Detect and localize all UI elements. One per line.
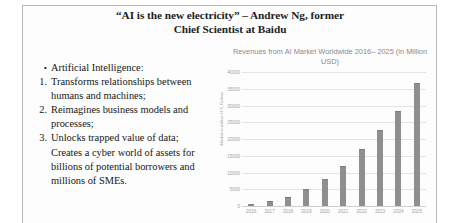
bar [285, 197, 291, 206]
bar-slot [408, 72, 426, 206]
bar-slot [260, 72, 278, 206]
x-axis-tick-label: 2017 [260, 209, 278, 215]
bar-slot [242, 72, 260, 206]
y-axis-tick-label: 15000 [227, 153, 240, 158]
x-axis-tick-label: 2024 [389, 209, 407, 215]
bar [359, 149, 365, 206]
list-item: 3. Unlocks trapped value of data; Create… [36, 131, 204, 187]
slide-title: “AI is the new electricity” – Andrew Ng,… [40, 9, 420, 36]
bar [377, 130, 383, 206]
slide-title-line-2: Chief Scientist at Baidu [40, 23, 420, 37]
bar-slot [316, 72, 334, 206]
list-item-text: Unlocks trapped value of data; Creates a… [51, 131, 204, 187]
y-axis-tick-label: 25000 [227, 120, 240, 125]
plot-area: Market in million U.S. Dollars 050001000… [212, 72, 434, 223]
bar [322, 179, 328, 206]
bullet-marker: • [36, 61, 51, 75]
chart-title: Revenues from AI Market Worldwide 2016– … [228, 47, 432, 67]
list-item-text: Artificial Intelligence: [51, 61, 204, 75]
list-item-text: Transforms relationships between humans … [51, 75, 204, 103]
list-item: 1. Transforms relationships between huma… [36, 75, 204, 103]
slide-title-line-1: “AI is the new electricity” – Andrew Ng,… [40, 9, 420, 23]
y-axis-tick-label: 20000 [227, 137, 240, 142]
x-axis-tick-label: 2016 [242, 209, 260, 215]
bar-series [242, 72, 426, 206]
y-axis-tick-label: 35000 [227, 86, 240, 91]
bar-slot [371, 72, 389, 206]
bar-slot [334, 72, 352, 206]
content-list: • Artificial Intelligence: 1. Transforms… [36, 61, 204, 188]
bar-slot [389, 72, 407, 206]
chart-title-line-1: Revenues from AI Market Worldwide 2016– [233, 47, 375, 56]
bar [303, 189, 309, 206]
bar-slot [297, 72, 315, 206]
y-axis-tick-label: 10000 [227, 170, 240, 175]
list-number-marker: 3. [36, 131, 51, 145]
bar-slot [352, 72, 370, 206]
x-axis-tick-label: 2025 [408, 209, 426, 215]
list-item: • Artificial Intelligence: [36, 61, 204, 75]
x-axis-tick-label: 2022 [352, 209, 370, 215]
x-axis-tick-label: 2019 [297, 209, 315, 215]
x-axis-tick-label: 2023 [371, 209, 389, 215]
bar [248, 204, 254, 206]
x-axis-tick-label: 2021 [334, 209, 352, 215]
x-axis-ticks: 2016201720182019202020212022202320242025 [242, 209, 426, 215]
bar [395, 111, 401, 206]
bar [340, 166, 346, 206]
bar-slot [279, 72, 297, 206]
y-axis-tick-label: 40000 [227, 70, 240, 75]
list-number-marker: 1. [36, 75, 51, 89]
x-axis-tick-label: 2018 [279, 209, 297, 215]
x-axis-tick-label: 2020 [316, 209, 334, 215]
bar [267, 201, 273, 206]
y-axis-tick-label: 5000 [230, 187, 240, 192]
slide-canvas: “AI is the new electricity” – Andrew Ng,… [0, 0, 462, 223]
y-axis-tick-label: 0 [237, 204, 240, 209]
list-item-text: Reimagines business models and processes… [51, 103, 204, 131]
axis-baseline [242, 206, 426, 207]
y-axis-tick-label: 30000 [227, 103, 240, 108]
list-item: 2. Reimagines business models and proces… [36, 103, 204, 131]
bar [414, 83, 420, 206]
list-number-marker: 2. [36, 103, 51, 117]
bar-chart: Revenues from AI Market Worldwide 2016– … [212, 47, 434, 223]
y-axis-ticks: 0500010000150002000025000300003500040000 [218, 72, 240, 206]
